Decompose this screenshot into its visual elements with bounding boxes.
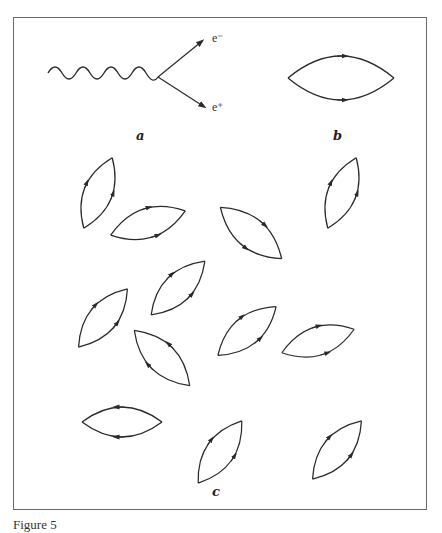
panel-b-loop xyxy=(288,56,394,100)
electron-label: e⁻ xyxy=(212,31,223,46)
positron-line xyxy=(158,77,203,106)
photon-wavy-line xyxy=(48,67,158,80)
figure-caption: Figure 5 xyxy=(13,517,57,533)
panel-a-diagram xyxy=(48,42,203,106)
positron-label: e⁺ xyxy=(212,100,223,115)
panel-a-label: a xyxy=(136,128,144,143)
panel-b-label: b xyxy=(333,128,342,143)
panel-c-label: c xyxy=(212,484,220,499)
electron-line xyxy=(158,42,201,77)
panel-c-loops xyxy=(68,152,373,491)
